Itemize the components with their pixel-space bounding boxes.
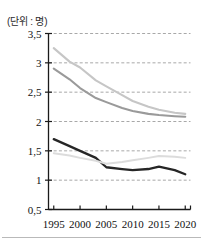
series-group [54,48,185,174]
bottom-divider-rule [2,237,201,238]
y-tick-label: 3 [36,57,42,69]
y-tick-label: 1 [36,174,42,186]
x-tick-label: 2020 [174,218,197,230]
series-line-series-4 [54,153,185,164]
x-axis-tick-labels: 199520002005201020152020 [43,218,197,230]
line-chart-plot: 3,532,521,510,5 199520002005201020152020 [0,0,203,247]
series-line-series-1 [54,48,185,114]
y-tick-label: 0,5 [28,204,42,216]
x-tick-label: 1995 [43,218,66,230]
y-axis-tick-labels: 3,532,521,510,5 [28,28,42,216]
y-tick-label: 3,5 [28,28,42,40]
y-tick-label: 2 [36,116,42,128]
x-tick-label: 2015 [148,218,171,230]
chart-figure: (단위 : 명) 3,532,521,510,5 199520002005201… [0,0,203,247]
x-tick-label: 2010 [122,218,145,230]
x-tick-label: 2000 [69,218,92,230]
x-tick-label: 2005 [95,218,118,230]
y-tick-label: 2,5 [28,86,42,98]
y-tick-label: 1,5 [28,145,42,157]
